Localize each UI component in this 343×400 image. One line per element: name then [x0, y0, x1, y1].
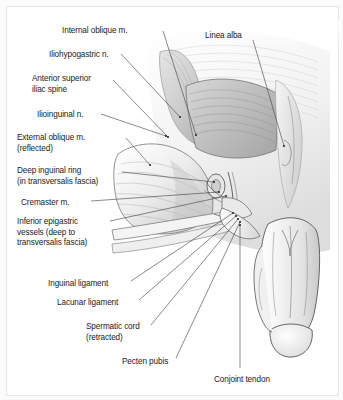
leader-inguinal-ligament-endpoint: [232, 212, 234, 214]
label-ilioinguinal: Ilioinguinal n.: [37, 110, 83, 121]
leader-pecten-pubis: [176, 222, 240, 358]
label-lacunar-ligament: Lacunar ligament: [57, 298, 118, 309]
label-cremaster: Cremaster m.: [21, 198, 69, 209]
leader-cremaster-endpoint: [218, 191, 220, 193]
anatomy-body: [112, 20, 340, 357]
label-external-oblique: External oblique m. (reflected): [17, 133, 85, 154]
anatomical-figure: Internal oblique m.Linea albaIliohypogas…: [0, 0, 343, 400]
leader-internal-oblique-endpoint: [195, 134, 197, 136]
leader-spermatic-cord-endpoint: [237, 218, 239, 220]
label-internal-oblique: Internal oblique m.: [62, 26, 127, 37]
leader-asis-endpoint: [167, 136, 169, 138]
label-linea-alba: Linea alba: [205, 31, 242, 42]
label-asis: Anterior superior iliac spine: [32, 74, 91, 95]
label-inguinal-ligament: Inguinal ligament: [48, 279, 108, 290]
label-conjoint-tendon: Conjoint tendon: [214, 375, 270, 386]
leader-iliohypogastric-endpoint: [179, 116, 181, 118]
label-deep-inguinal-ring: Deep inguinal ring (in transversalis fas…: [17, 166, 98, 187]
leader-lacunar-ligament-endpoint: [235, 215, 237, 217]
leader-deep-inguinal-ring-endpoint: [213, 181, 215, 183]
label-inferior-epigastric: Inferior epigastric vessels (deep to tra…: [17, 217, 87, 249]
leader-conjoint-tendon-endpoint: [239, 224, 241, 226]
label-iliohypogastric: Iliohypogastric n.: [49, 50, 109, 61]
internal-oblique-belly: [186, 79, 278, 158]
glans: [270, 324, 312, 357]
leader-external-oblique-endpoint: [149, 164, 151, 166]
label-spermatic-cord: Spermatic cord (retracted): [86, 322, 140, 343]
leader-inferior-epigastric-endpoint: [225, 195, 227, 197]
label-pecten-pubis: Pecten pubis: [122, 357, 168, 368]
penis-scrotum: [254, 218, 320, 357]
leader-pecten-pubis-endpoint: [239, 221, 241, 223]
leader-linea-alba-endpoint: [283, 145, 285, 147]
leader-ilioinguinal-endpoint: [165, 135, 167, 137]
